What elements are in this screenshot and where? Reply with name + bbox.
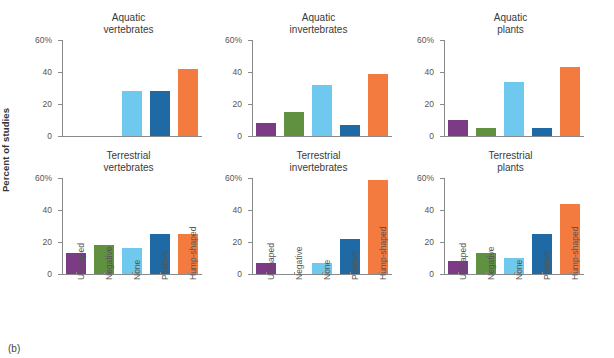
- panel-title: Aquaticinvertebrates: [240, 12, 397, 36]
- y-axis-tick-label: 40: [425, 205, 434, 215]
- x-axis-labels: U-shapedNegativeNonePositiveHump-shaped: [62, 276, 202, 346]
- bar: [256, 123, 276, 136]
- bar-slot: [308, 40, 336, 136]
- x-axis-label-slot: Positive: [336, 276, 364, 346]
- x-axis-label-slot: None: [308, 276, 336, 346]
- x-axis-tick-label: Negative: [294, 246, 304, 280]
- x-axis-tick-label: Positive: [350, 250, 360, 280]
- x-axis-label-slot: None: [118, 276, 146, 346]
- panel-title: Terrestrialplants: [432, 150, 589, 174]
- panel-title: Terrestrialvertebrates: [50, 150, 207, 174]
- panel-title-line-1: Terrestrial: [50, 150, 207, 162]
- y-axis-tick-label: 20: [43, 99, 52, 109]
- x-axis-label-slot: Negative: [90, 276, 118, 346]
- panel-title-line-2: vertebrates: [50, 24, 207, 36]
- bar-slot: [90, 40, 118, 136]
- bar-series: [444, 40, 584, 136]
- figure-caption: (b): [8, 343, 20, 354]
- y-axis-tick: 0: [58, 274, 62, 275]
- y-axis-tick-label: 60%: [417, 173, 434, 183]
- chart-panel: Aquaticinvertebrates0204060%: [212, 10, 397, 144]
- bar: [560, 67, 580, 136]
- y-axis-tick-label: 0: [47, 131, 52, 141]
- x-axis-label-slot: Hump-shaped: [364, 276, 392, 346]
- x-axis-tick-label: U-shaped: [266, 243, 276, 280]
- panel-title-line-2: invertebrates: [240, 24, 397, 36]
- y-axis-tick: 0: [440, 136, 444, 137]
- y-axis-tick-label: 60%: [35, 35, 52, 45]
- x-axis-label-slot: U-shaped: [252, 276, 280, 346]
- bar-series: [252, 40, 392, 136]
- x-axis-tick-label: Negative: [486, 246, 496, 280]
- x-axis-tick-label: Hump-shaped: [378, 227, 388, 280]
- y-axis-tick-label: 0: [47, 269, 52, 279]
- bar-slot: [500, 40, 528, 136]
- chart-panel: Aquaticvertebrates0204060%: [22, 10, 207, 144]
- x-axis-tick-label: Positive: [542, 250, 552, 280]
- bar-slot: [528, 40, 556, 136]
- x-axis-tick-label: None: [514, 260, 524, 280]
- y-axis-tick-label: 0: [237, 269, 242, 279]
- bar-series: [62, 40, 202, 136]
- bar: [312, 85, 332, 136]
- bar: [448, 120, 468, 136]
- plot-area: 0204060%: [444, 40, 584, 136]
- x-axis-label-slot: U-shaped: [444, 276, 472, 346]
- x-axis-label-slot: Positive: [146, 276, 174, 346]
- y-axis-tick-label: 20: [425, 99, 434, 109]
- y-axis-tick-label: 60%: [35, 173, 52, 183]
- x-axis-label-slot: Negative: [472, 276, 500, 346]
- bar-slot: [556, 40, 584, 136]
- y-axis-tick: 0: [58, 136, 62, 137]
- y-axis-tick-label: 20: [233, 237, 242, 247]
- y-axis-tick-label: 40: [233, 67, 242, 77]
- x-axis-labels: U-shapedNegativeNonePositiveHump-shaped: [444, 276, 584, 346]
- x-axis-tick-label: Hump-shaped: [570, 227, 580, 280]
- x-axis-tick-label: Hump-shaped: [188, 227, 198, 280]
- y-axis-tick-label: 20: [43, 237, 52, 247]
- figure-panel-b: Percent of studies (b) Aquaticvertebrate…: [0, 0, 614, 358]
- bar-slot: [146, 40, 174, 136]
- x-axis-tick-label: Negative: [104, 246, 114, 280]
- panel-title: Terrestrialinvertebrates: [240, 150, 397, 174]
- chart-panel: Terrestrialinvertebrates0204060%U-shaped…: [212, 148, 397, 282]
- panel-title-line-2: vertebrates: [50, 162, 207, 174]
- bar-slot: [336, 40, 364, 136]
- panel-title-line-1: Aquatic: [50, 12, 207, 24]
- panel-title-line-1: Terrestrial: [240, 150, 397, 162]
- x-axis-label-slot: Positive: [528, 276, 556, 346]
- chart-panel: Terrestrialplants0204060%U-shapedNegativ…: [404, 148, 589, 282]
- bar: [340, 125, 360, 136]
- x-axis-tick-label: None: [132, 260, 142, 280]
- chart-panel: Aquaticplants0204060%: [404, 10, 589, 144]
- bar-slot: [174, 40, 202, 136]
- bar-slot: [252, 40, 280, 136]
- panel-title-line-2: plants: [432, 162, 589, 174]
- y-axis-tick-label: 0: [237, 131, 242, 141]
- y-axis-tick-label: 0: [429, 131, 434, 141]
- x-axis-label-slot: None: [500, 276, 528, 346]
- x-axis-label-slot: Hump-shaped: [556, 276, 584, 346]
- bar: [504, 82, 524, 136]
- x-axis-tick-label: U-shaped: [458, 243, 468, 280]
- x-axis-label-slot: Hump-shaped: [174, 276, 202, 346]
- plot-area: 0204060%: [252, 40, 392, 136]
- x-axis-label-slot: Negative: [280, 276, 308, 346]
- bar: [150, 91, 170, 136]
- y-axis-tick: 0: [440, 274, 444, 275]
- x-axis-labels: U-shapedNegativeNonePositiveHump-shaped: [252, 276, 392, 346]
- bar-slot: [444, 40, 472, 136]
- bar-slot: [472, 40, 500, 136]
- x-axis-tick-label: None: [322, 260, 332, 280]
- chart-panel: Terrestrialvertebrates0204060%U-shapedNe…: [22, 148, 207, 282]
- y-axis-tick-label: 40: [43, 205, 52, 215]
- bar-slot: [118, 40, 146, 136]
- bar: [532, 128, 552, 136]
- bar: [368, 74, 388, 136]
- y-axis-tick-label: 40: [425, 67, 434, 77]
- bar-slot: [280, 40, 308, 136]
- panel-title: Aquaticvertebrates: [50, 12, 207, 36]
- panel-title-line-1: Aquatic: [432, 12, 589, 24]
- y-axis-tick-label: 60%: [225, 173, 242, 183]
- bar: [284, 112, 304, 136]
